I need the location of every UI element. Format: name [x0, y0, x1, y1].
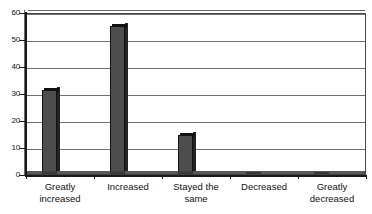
gridline-20 — [27, 122, 365, 123]
x-category-label: Decreased — [230, 181, 298, 193]
bar-side-face — [125, 23, 128, 172]
bar-chart: 0102030405060 Greatly increasedIncreased… — [0, 0, 372, 214]
bar — [42, 90, 57, 174]
y-tick-label-60: 60 — [0, 9, 20, 17]
y-tick-label-20: 20 — [0, 117, 20, 125]
x-tick-mark-5 — [366, 175, 367, 179]
bar — [178, 135, 193, 174]
x-tick-mark-2 — [162, 175, 163, 179]
gridline-40 — [27, 68, 365, 69]
x-tick-mark-0 — [26, 175, 27, 179]
bar-front-face — [178, 135, 193, 174]
y-axis: 0102030405060 — [0, 0, 20, 214]
y-tick-mark-10 — [19, 148, 26, 149]
bar — [110, 26, 125, 175]
plot-area — [26, 13, 366, 175]
y-tick-label-10: 10 — [0, 144, 20, 152]
bar-side-face — [57, 87, 60, 171]
bar-front-face — [110, 26, 125, 175]
x-category-label: Increased — [94, 181, 162, 193]
y-tick-mark-40 — [19, 67, 26, 68]
bar-front-face — [42, 90, 57, 174]
x-tick-mark-4 — [298, 175, 299, 179]
y-tick-mark-30 — [19, 94, 26, 95]
x-tick-mark-3 — [230, 175, 231, 179]
y-tick-mark-50 — [19, 40, 26, 41]
y-tick-mark-0 — [19, 175, 26, 176]
x-category-label: Greatly decreased — [298, 181, 366, 204]
x-axis-line — [25, 175, 367, 177]
y-tick-label-0: 0 — [0, 171, 20, 179]
gridline-50 — [27, 41, 365, 42]
gridline-30 — [27, 95, 365, 96]
y-tick-mark-20 — [19, 121, 26, 122]
y-tick-label-50: 50 — [0, 36, 20, 44]
gridline-60 — [27, 14, 365, 15]
gridline-10 — [27, 149, 365, 150]
bar-side-face — [193, 132, 196, 171]
x-tick-mark-1 — [94, 175, 95, 179]
x-category-label: Greatly increased — [26, 181, 94, 204]
y-tick-mark-60 — [19, 13, 26, 14]
y-tick-label-40: 40 — [0, 63, 20, 71]
x-category-label: Stayed the same — [162, 181, 230, 204]
y-tick-label-30: 30 — [0, 90, 20, 98]
